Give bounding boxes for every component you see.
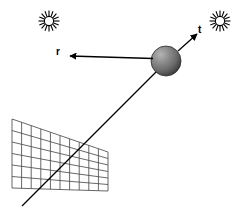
sun-rays-left <box>39 11 60 32</box>
diagram-svg: r t <box>0 0 249 218</box>
sun-disc-right <box>215 16 224 25</box>
sun-icon-left <box>39 11 60 32</box>
reflected-ray <box>70 56 153 59</box>
sun-rays-right <box>210 11 231 32</box>
image-plane-grid <box>12 119 108 191</box>
shaded-sphere <box>151 46 181 76</box>
figure-canvas: r t <box>0 0 249 218</box>
label-transmitted-vector: t <box>198 24 202 35</box>
sun-icon-right <box>210 11 231 32</box>
transmitted-ray <box>178 34 197 51</box>
sun-disc-left <box>44 16 53 25</box>
label-reflected-vector: r <box>56 46 60 57</box>
incoming-ray <box>22 65 163 206</box>
